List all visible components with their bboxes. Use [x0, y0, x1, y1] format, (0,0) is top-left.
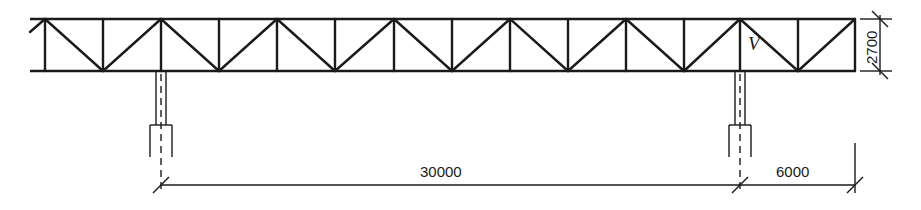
diagonal-member	[626, 19, 684, 71]
diagonal-member	[335, 19, 394, 71]
diagonal-member	[103, 19, 161, 71]
truss-diagram: V 30000 6000 2700	[0, 0, 921, 210]
diagonal-member	[161, 19, 219, 71]
diagonal-member	[510, 19, 568, 71]
diagonal-member	[45, 19, 103, 71]
diagonal-member	[394, 19, 452, 71]
span-dimension-label: 30000	[420, 163, 462, 180]
diagonal-member	[568, 19, 626, 71]
diagonal-member	[277, 19, 335, 71]
diagonal-member	[684, 19, 740, 71]
stub-diagonal	[30, 19, 45, 32]
diagonal-member	[219, 19, 277, 71]
diagonal-member	[798, 19, 855, 71]
truss	[30, 19, 855, 71]
diagonal-member	[452, 19, 510, 71]
depth-dimension-label: 2700	[863, 31, 880, 64]
cantilever-dimension-label: 6000	[776, 163, 809, 180]
